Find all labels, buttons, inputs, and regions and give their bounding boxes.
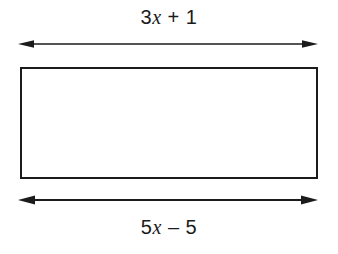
bottom-dimension-arrow [18,196,318,205]
bottom-dimension-label: 5x – 5 [0,216,338,239]
bottom-arrow-head-left-icon [18,196,35,205]
top-arrow-head-left-icon [18,40,34,48]
bottom-arrow-head-right-icon [301,196,318,205]
top-arrow-head-right-icon [302,40,318,48]
figure-canvas: 3x + 1 5x – 5 [0,0,338,254]
top-dimension-arrow [18,40,318,48]
rectangle-shape [21,68,317,178]
